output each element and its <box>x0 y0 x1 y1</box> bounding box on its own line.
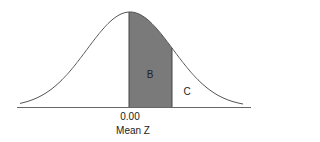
region-c-label: C <box>183 86 190 97</box>
region-b-shading <box>129 12 172 107</box>
region-b-label: B <box>147 69 154 80</box>
x-axis-label: Mean Z <box>116 125 150 136</box>
x-tick-label: 0.00 <box>120 111 139 122</box>
